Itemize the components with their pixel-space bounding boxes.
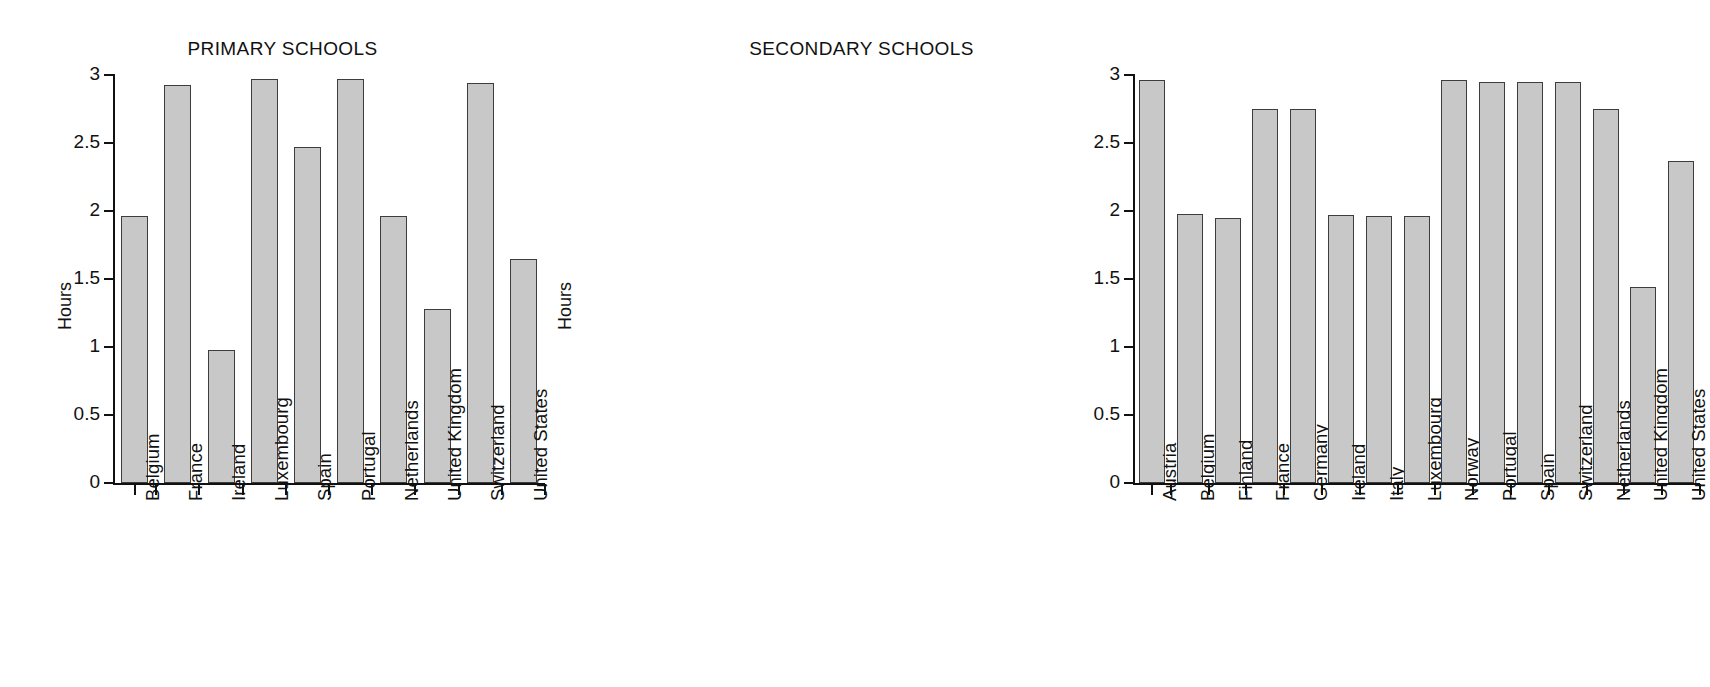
chart-panel-secondary-schools: SECONDARY SCHOOLS Hours 00.511.522.53Aus… — [520, 0, 1203, 687]
y-tick-label: 0.5 — [74, 403, 100, 425]
plot-area-primary: 00.511.522.53BelgiumFranceIrelandLuxembo… — [113, 75, 545, 483]
bar — [1139, 80, 1165, 483]
y-tick-label: 2.5 — [74, 131, 100, 153]
y-tick-mark — [1124, 74, 1133, 76]
y-tick-mark — [1124, 210, 1133, 212]
bar — [294, 147, 321, 483]
chart-panel-primary-schools: PRIMARY SCHOOLS Hours 00.511.522.53Belgi… — [0, 0, 575, 687]
x-tick-mark — [1151, 484, 1153, 495]
x-tick-label: Luxembourg — [271, 397, 293, 501]
y-tick-label: 0.5 — [1094, 403, 1120, 425]
bar — [1479, 82, 1505, 483]
y-tick-mark — [104, 414, 113, 416]
chart-title-secondary: SECONDARY SCHOOLS — [520, 38, 1203, 60]
bar — [337, 79, 364, 483]
x-tick-label: United States — [1688, 389, 1710, 501]
x-tick-mark — [134, 484, 136, 495]
y-tick-mark — [1124, 346, 1133, 348]
x-tick-label: France — [185, 443, 207, 501]
y-tick-mark — [1124, 414, 1133, 416]
x-tick-label: Ireland — [228, 444, 250, 501]
bar — [1252, 109, 1278, 483]
y-tick-label: 0 — [1109, 471, 1120, 493]
y-tick-mark — [104, 278, 113, 280]
y-axis-line-primary — [113, 74, 115, 484]
y-tick-mark — [104, 482, 113, 484]
y-tick-mark — [1124, 278, 1133, 280]
y-axis-label-secondary: Hours — [555, 282, 576, 330]
y-tick-mark — [104, 74, 113, 76]
bar — [1441, 80, 1467, 483]
bar — [164, 85, 191, 483]
y-tick-label: 2.5 — [1094, 131, 1120, 153]
chart-title-primary: PRIMARY SCHOOLS — [0, 38, 570, 60]
y-tick-label: 1.5 — [74, 267, 100, 289]
bar — [1366, 216, 1392, 483]
bar — [1517, 82, 1543, 483]
y-tick-label: 1 — [1109, 335, 1120, 357]
y-tick-mark — [104, 346, 113, 348]
y-axis-label-primary: Hours — [55, 282, 76, 330]
y-tick-mark — [104, 210, 113, 212]
y-tick-mark — [1124, 482, 1133, 484]
x-tick-label: Belgium — [142, 433, 164, 501]
y-tick-label: 2 — [89, 199, 100, 221]
y-axis-line-secondary — [1133, 74, 1135, 484]
y-tick-label: 3 — [89, 63, 100, 85]
y-tick-label: 1 — [89, 335, 100, 357]
y-tick-label: 3 — [1109, 63, 1120, 85]
x-tick-label: Portugal — [358, 431, 380, 501]
plot-area-secondary: 00.511.522.53AustriaBelgiumFinlandFrance… — [1133, 75, 1700, 483]
y-tick-mark — [1124, 142, 1133, 144]
y-tick-mark — [104, 142, 113, 144]
y-tick-label: 1.5 — [1094, 267, 1120, 289]
x-tick-label: Switzerland — [487, 404, 509, 501]
y-tick-label: 2 — [1109, 199, 1120, 221]
x-tick-label: Netherlands — [401, 400, 423, 501]
x-tick-label: Spain — [314, 453, 336, 501]
x-tick-label: United Kingdom — [444, 368, 466, 501]
y-tick-label: 0 — [89, 471, 100, 493]
